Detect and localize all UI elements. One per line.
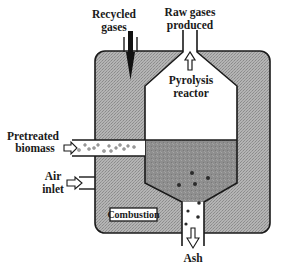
pyrolysis-label-line2: reactor: [173, 87, 209, 99]
biomass-label-line1: Pretreated: [7, 130, 60, 142]
biomass-label-line2: biomass: [15, 142, 55, 154]
ash-label: Ash: [183, 252, 203, 264]
combustion-label: Combustion: [107, 209, 160, 220]
raw-gases-label-line1: Raw gases: [165, 6, 216, 19]
combustion-label-box: Combustion: [107, 208, 160, 221]
recycled-gases-label-line2: gases: [101, 21, 127, 34]
air-label-line2: inlet: [42, 183, 64, 195]
air-label-line1: Air: [45, 170, 62, 182]
pyrolysis-diagram: Combustion Recycled gases Raw gases prod…: [0, 0, 286, 271]
pyrolysis-label-line1: Pyrolysis: [169, 74, 214, 87]
arrow-right-icon: [67, 177, 82, 189]
raw-gases-label-line2: produced: [167, 19, 214, 32]
recycled-gases-label-line1: Recycled: [92, 8, 137, 21]
